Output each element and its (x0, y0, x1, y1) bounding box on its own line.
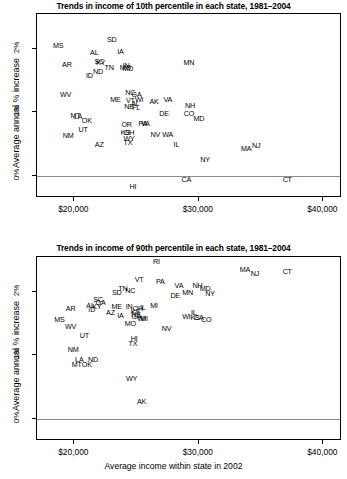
x-axis-tick (198, 440, 199, 444)
data-point-label: NY (205, 291, 215, 298)
chart-title-10th: Trends in income of 10th percentile in e… (0, 1, 347, 11)
y-axis-tick (32, 175, 36, 176)
x-axis-label: Average income within state in 2002 (0, 461, 347, 471)
data-point-label: AZ (106, 310, 115, 317)
data-point-label: MN (183, 59, 194, 66)
x-axis-tick-label: $40,000 (307, 204, 337, 214)
data-point-label: ME (110, 97, 120, 104)
x-axis-tick (73, 440, 74, 444)
chart-panel-90th-percentile: Trends in income of 90th percentile in e… (0, 239, 347, 479)
data-point-label: UT (78, 127, 87, 134)
data-point-label: MI (150, 303, 158, 310)
y-axis-tick-label: 2% (12, 276, 21, 304)
y-axis-tick-label: 1% (12, 97, 21, 125)
data-point-label: ID (88, 307, 95, 314)
chart-panel-10th-percentile: Trends in income of 10th percentile in e… (0, 0, 347, 239)
data-point-label: NJ (252, 142, 260, 149)
data-point-label: IA (117, 312, 123, 319)
data-point-label: AZ (95, 142, 104, 149)
data-point-label: MS (54, 316, 64, 323)
data-point-label: WA (162, 131, 173, 138)
data-point-label: MI (140, 315, 148, 322)
data-point-label: NY (200, 156, 210, 163)
data-point-label: AK (137, 399, 146, 406)
y-axis-tick-label: 0% (12, 160, 21, 188)
data-point-label: CO (201, 316, 211, 323)
x-axis-tick-label: $20,000 (58, 447, 88, 457)
data-point-label: FL (132, 104, 140, 111)
data-point-label: WV (60, 92, 71, 99)
plot-area-10th: MSSDALIASCKYARMNTNMOINMDNDIDNCGAWVMEVTWI… (37, 14, 340, 196)
y-axis-tick (32, 111, 36, 112)
data-point-label: ID (86, 72, 93, 79)
data-point-label: ND (93, 68, 103, 75)
data-point-label: DE (170, 292, 180, 299)
data-point-label: AK (149, 99, 158, 106)
x-axis-tick (73, 197, 74, 201)
data-point-label: VA (141, 120, 150, 127)
data-point-label: AR (62, 62, 72, 69)
data-point-label: CT (283, 268, 292, 275)
data-point-label: CT (283, 177, 292, 184)
data-point-label: RI (153, 258, 160, 265)
data-point-label: TX (123, 139, 132, 146)
data-point-label: SD (107, 36, 117, 43)
data-point-label: OK (82, 362, 92, 369)
data-point-label: WV (65, 324, 76, 331)
y-axis-tick-label: 0% (12, 403, 21, 431)
data-point-label: MN (182, 290, 193, 297)
data-point-label: MA (241, 146, 251, 153)
data-point-label: CA (182, 177, 192, 184)
data-point-label: MO (125, 321, 136, 328)
data-point-label: IL (174, 141, 180, 148)
plot-frame-10th: MSSDALIASCKYARMNTNMOINMDNDIDNCGAWVMEVTWI… (36, 13, 341, 197)
data-point-label: WI (182, 314, 190, 321)
data-point-label: OK (82, 118, 92, 125)
data-point-label: HI (129, 183, 136, 190)
x-axis-tick-label: $30,000 (183, 204, 213, 214)
data-point-label: MA (240, 266, 250, 273)
zero-reference-line (37, 419, 340, 420)
data-point-label: NJ (251, 271, 259, 278)
data-point-label: NM (68, 347, 79, 354)
y-axis-tick (32, 291, 36, 292)
y-axis-tick-label: 2% (12, 33, 21, 61)
x-axis-tick (198, 197, 199, 201)
data-point-label: MS (53, 42, 63, 49)
data-point-label: AR (66, 305, 76, 312)
y-axis-tick (32, 354, 36, 355)
y-axis-tick (32, 48, 36, 49)
plot-frame-90th: RIMANJCTVTPAVANHMDTNNCSDMNDENYSCGAALKYME… (36, 256, 341, 440)
data-point-label: MD (122, 66, 133, 73)
y-axis-tick (32, 418, 36, 419)
data-point-label: PA (156, 278, 165, 285)
data-point-label: NC (125, 288, 135, 295)
data-point-label: DE (159, 110, 169, 117)
chart-title-90th: Trends in income of 90th percentile in e… (0, 243, 347, 253)
x-axis-tick (322, 197, 323, 201)
data-point-label: VT (135, 277, 144, 284)
data-point-label: MD (193, 115, 204, 122)
data-point-label: SD (112, 289, 122, 296)
x-axis-tick (322, 440, 323, 444)
data-point-label: VA (163, 97, 172, 104)
x-axis-tick-label: $30,000 (183, 447, 213, 457)
data-point-label: NM (63, 133, 74, 140)
data-point-label: IA (117, 48, 123, 55)
data-point-label: NV (150, 131, 160, 138)
y-axis-tick-label: 1% (12, 340, 21, 368)
plot-area-90th: RIMANJCTVTPAVANHMDTNNCSDMNDENYSCGAALKYME… (37, 257, 340, 439)
data-point-label: TX (128, 340, 137, 347)
data-point-label: NV (162, 325, 172, 332)
data-point-label: UT (80, 333, 89, 340)
data-point-label: TN (105, 64, 114, 71)
data-point-label: AL (90, 49, 98, 56)
data-point-label: WY (126, 376, 137, 383)
data-point-label: MT (72, 361, 82, 368)
x-axis-tick-label: $40,000 (307, 447, 337, 457)
x-axis-tick-label: $20,000 (58, 204, 88, 214)
